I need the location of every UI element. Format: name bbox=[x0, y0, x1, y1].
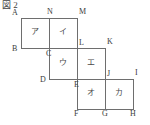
cell-ka-label: カ bbox=[113, 89, 125, 97]
seg-B-K bbox=[21, 48, 106, 49]
figure-canvas: 図 2 アイウエオカ ANMBCLKDEJIFGH bbox=[0, 0, 150, 125]
vertex-label-d: D bbox=[40, 76, 46, 84]
seg-M-F bbox=[77, 18, 78, 110]
vertex-label-m: M bbox=[79, 8, 86, 16]
seg-A-B bbox=[21, 18, 22, 49]
vertex-label-i: I bbox=[135, 69, 138, 77]
cell-i-label: イ bbox=[57, 28, 69, 36]
cell-e-label: エ bbox=[85, 59, 97, 67]
seg-I-H bbox=[133, 79, 134, 110]
vertex-label-g: G bbox=[102, 110, 108, 118]
vertex-label-h: H bbox=[130, 110, 136, 118]
vertex-label-e: E bbox=[74, 81, 79, 89]
vertex-label-c: C bbox=[46, 50, 51, 58]
cell-u-label: ウ bbox=[57, 59, 69, 67]
cell-o-label: オ bbox=[85, 89, 97, 97]
cell-a-label: ア bbox=[29, 28, 41, 36]
vertex-label-f: F bbox=[74, 110, 78, 118]
vertex-label-a: A bbox=[12, 9, 18, 17]
vertex-label-j: J bbox=[107, 70, 110, 78]
vertex-label-k: K bbox=[107, 38, 113, 46]
seg-K-G bbox=[105, 48, 106, 110]
vertex-label-l: L bbox=[79, 39, 84, 47]
vertex-label-n: N bbox=[47, 8, 53, 16]
seg-D-I bbox=[49, 79, 134, 80]
vertex-label-b: B bbox=[12, 45, 17, 53]
